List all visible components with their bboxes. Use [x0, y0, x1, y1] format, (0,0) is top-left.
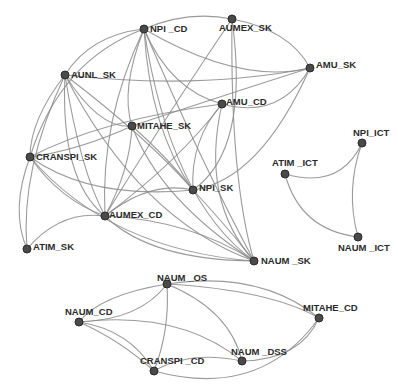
graph-edge	[144, 29, 310, 72]
node-label: NAUM _DSS	[231, 346, 287, 357]
graph-node-cranspi-sk: CRANSPI_SK	[26, 151, 97, 162]
node-dot	[306, 64, 314, 72]
graph-edge	[19, 157, 30, 249]
graph-node-npi-cd: NPI _CD	[140, 23, 188, 34]
graph-node-cranspi-cd: CRANSPI _CD	[140, 355, 205, 375]
graph-node-naum-dss: NAUM _DSS	[231, 346, 287, 365]
node-label: NPI_SK	[199, 182, 233, 193]
graph-node-naum-sk: NAUM _SK	[250, 255, 311, 266]
node-label: AUMEX_SK	[219, 22, 272, 33]
graph-edge	[144, 29, 254, 261]
node-dot	[61, 71, 69, 79]
graph-node-npi-sk: NPI_SK	[189, 182, 233, 194]
node-dot	[189, 186, 197, 194]
node-label: NAUM_CD	[65, 306, 113, 317]
graph-edge	[128, 29, 144, 126]
network-graph: NPI _CDAUMEX_SKAMU_SKAUNL_SKAMU_CDMITAHE…	[0, 0, 398, 392]
graph-node-aumex-cd: AUMEX_CD	[101, 209, 162, 220]
node-dot	[358, 139, 366, 147]
graph-edge	[65, 75, 193, 190]
graph-node-amu-sk: AMU_SK	[306, 59, 356, 72]
node-dot	[101, 212, 109, 220]
node-label: NPI_ICT	[353, 127, 390, 138]
graph-node-atim-sk: ATIM_SK	[23, 241, 74, 253]
node-dot	[140, 25, 148, 33]
node-label: ATIM _ICT	[272, 157, 318, 168]
graph-node-naum-os: NAUM _OS	[157, 272, 207, 288]
node-label: NAUM _SK	[261, 255, 311, 266]
nodes-layer: NPI _CDAUMEX_SKAMU_SKAUNL_SKAMU_CDMITAHE…	[23, 15, 390, 375]
graph-node-mitahe-cd: MITAHE_CD	[303, 302, 358, 322]
graph-node-naum-cd: NAUM_CD	[65, 306, 113, 326]
graph-edge	[65, 75, 106, 216]
graph-edge	[65, 75, 105, 216]
graph-node-atim-ict: ATIM _ICT	[272, 157, 318, 178]
node-label: AMU_CD	[226, 96, 267, 107]
graph-edge	[144, 29, 254, 261]
graph-edge	[167, 284, 319, 318]
node-dot	[128, 122, 136, 130]
node-dot	[315, 314, 323, 322]
node-dot	[218, 100, 226, 108]
node-label: CRANSPI _CD	[140, 355, 205, 366]
graph-edge	[285, 174, 358, 237]
node-label: ATIM_SK	[33, 241, 74, 252]
graph-edge	[105, 216, 254, 261]
graph-edge	[30, 104, 222, 157]
node-label: NAUM _ICT	[338, 242, 390, 253]
node-dot	[250, 257, 258, 265]
node-dot	[23, 245, 31, 253]
graph-edge	[105, 216, 254, 261]
graph-edge	[167, 281, 319, 318]
node-label: NAUM _OS	[157, 272, 207, 283]
node-label: AUMEX_CD	[109, 209, 162, 220]
node-dot	[75, 318, 83, 326]
graph-node-npi-ict: NPI_ICT	[353, 127, 390, 147]
node-label: AMU_SK	[316, 59, 356, 70]
node-label: MITAHE_SK	[137, 120, 191, 131]
node-dot	[26, 153, 34, 161]
node-dot	[238, 357, 246, 365]
node-dot	[354, 233, 362, 241]
node-label: CRANSPI_SK	[36, 151, 97, 162]
graph-edge	[30, 157, 105, 216]
node-dot	[150, 367, 158, 375]
graph-node-mitahe-sk: MITAHE_SK	[128, 120, 191, 131]
node-label: AUNL_SK	[71, 69, 116, 80]
graph-node-naum-ict: NAUM _ICT	[338, 233, 390, 253]
graph-edge	[30, 29, 144, 157]
node-label: NPI _CD	[150, 23, 188, 34]
graph-node-amu-cd: AMU_CD	[218, 96, 267, 108]
node-dot	[281, 170, 289, 178]
node-label: MITAHE_CD	[303, 302, 358, 313]
